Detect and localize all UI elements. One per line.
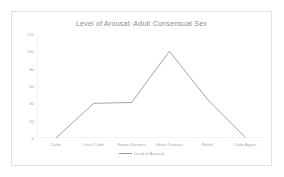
plot-wrapper: 020406080100120 CalmLess CalmSome Distre… [12, 12, 273, 167]
x-axis-tick-label: Relief [202, 142, 213, 147]
y-axis-tick-label: 80 [29, 66, 34, 71]
y-axis-tick-label: 0 [32, 136, 34, 141]
y-axis-tick-label: 20 [29, 118, 34, 123]
x-axis-tick-label: Less Calm [84, 142, 104, 147]
legend-line-swatch-icon [119, 153, 132, 154]
screenshot-root: Level of Arousal: Adult Consensual Sex 0… [0, 0, 284, 177]
x-axis-tick-label: Some Distress [118, 142, 146, 147]
chart-container: Level of Arousal: Adult Consensual Sex 0… [11, 11, 272, 166]
x-axis-tick-label: Calm Again [234, 142, 256, 147]
x-axis-tick-label: Great Distress [156, 142, 183, 147]
legend-entry-label: Level of Arousal [134, 151, 165, 156]
y-axis-tick-label: 40 [29, 101, 34, 106]
chart-svg [37, 34, 264, 138]
plot-area: CalmLess CalmSome DistressGreat Distress… [37, 34, 264, 138]
chart-legend: Level of Arousal [12, 151, 271, 156]
y-axis-tick-label: 120 [27, 32, 34, 37]
x-axis-tick-label: Calm [51, 142, 61, 147]
data-series-line [56, 51, 245, 138]
y-axis-tick-label: 100 [27, 49, 34, 54]
y-axis-tick-label: 60 [29, 84, 34, 89]
